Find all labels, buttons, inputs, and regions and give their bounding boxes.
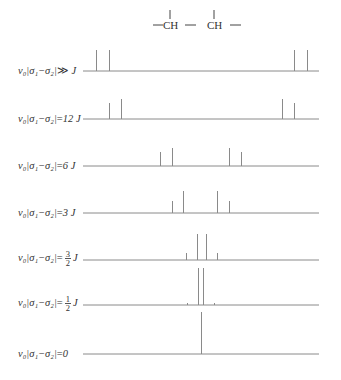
spectrum-row-1 <box>83 99 319 119</box>
spectrum-row-4 <box>83 234 319 260</box>
row-label-0: ν₀|σ₁−σ₂|≫ J <box>18 65 76 77</box>
row-label-3: ν₀|σ₁−σ₂|=3 J <box>18 207 75 219</box>
row-label-2: ν₀|σ₁−σ₂|=6 J <box>18 160 75 172</box>
spectrum-row-0 <box>83 50 319 71</box>
spectrum-row-2 <box>83 148 319 166</box>
row-label-1: ν₀|σ₁−σ₂|=12 J <box>18 113 81 125</box>
fraction-1-2: 12 <box>65 295 71 312</box>
row-label-5: ν₀|σ₁−σ₂|=12J <box>18 295 78 312</box>
spectrum-row-3 <box>83 191 319 213</box>
fraction-3-2: 32 <box>65 250 71 267</box>
spectra-plot <box>0 0 341 380</box>
row-label-6: ν₀|σ₁−σ₂|=0 <box>18 348 68 360</box>
row-label-4: ν₀|σ₁−σ₂|=32J <box>18 250 78 267</box>
spectrum-row-5 <box>83 268 319 305</box>
spectrum-row-6 <box>83 312 319 354</box>
